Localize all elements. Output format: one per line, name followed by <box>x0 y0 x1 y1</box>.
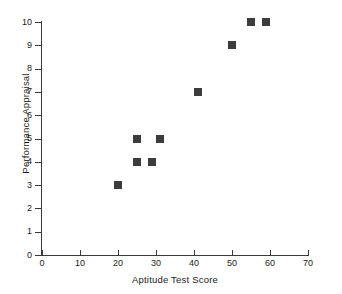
y-tick-mark <box>35 115 41 116</box>
x-tick-label: 60 <box>258 259 282 268</box>
x-axis-line <box>41 255 309 256</box>
data-point <box>194 88 202 96</box>
plot-area <box>42 22 308 255</box>
y-tick-mark <box>35 139 41 140</box>
y-tick-label: 0 <box>0 251 32 260</box>
y-tick-mark <box>35 69 41 70</box>
x-tick-label: 40 <box>182 259 206 268</box>
data-point <box>262 18 270 26</box>
y-tick-mark <box>35 45 41 46</box>
y-tick-mark <box>35 162 41 163</box>
x-tick-label: 70 <box>296 259 320 268</box>
x-tick-label: 50 <box>220 259 244 268</box>
x-tick-mark <box>308 250 309 256</box>
data-point <box>247 18 255 26</box>
y-tick-mark <box>35 22 41 23</box>
x-axis-title: Aptitude Test Score <box>42 274 308 285</box>
y-tick-mark <box>35 185 41 186</box>
data-point <box>228 41 236 49</box>
y-tick-label: 2 <box>0 204 32 213</box>
x-tick-label: 10 <box>68 259 92 268</box>
data-point <box>133 158 141 166</box>
data-point <box>148 158 156 166</box>
data-point <box>133 135 141 143</box>
y-tick-mark <box>35 232 41 233</box>
y-tick-mark <box>35 208 41 209</box>
data-point <box>114 181 122 189</box>
y-tick-mark <box>35 92 41 93</box>
y-axis-title: Performance Appraisal <box>20 44 31 204</box>
x-tick-label: 20 <box>106 259 130 268</box>
scatter-chart: 012345678910 010203040506070 Aptitude Te… <box>0 0 342 294</box>
y-tick-label: 10 <box>0 18 32 27</box>
x-tick-label: 0 <box>30 259 54 268</box>
y-tick-mark <box>35 255 41 256</box>
y-tick-label: 1 <box>0 227 32 236</box>
data-point <box>156 135 164 143</box>
x-tick-label: 30 <box>144 259 168 268</box>
